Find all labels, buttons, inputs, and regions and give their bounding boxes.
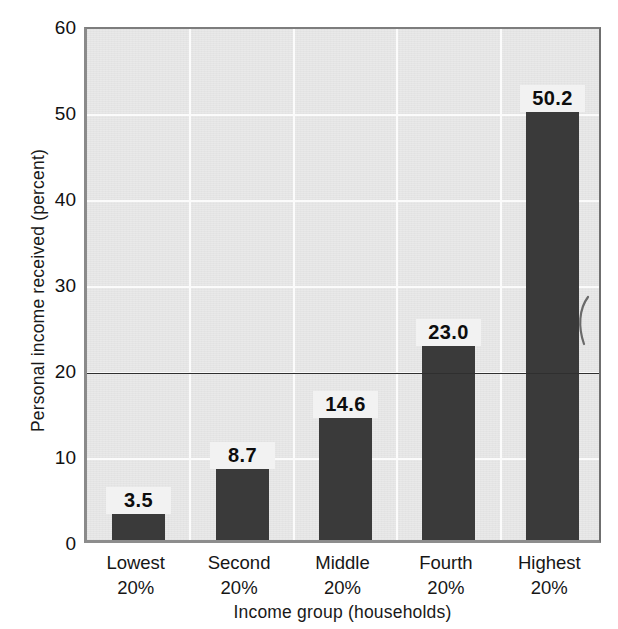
x-tick-label: Lowest20% <box>84 550 187 600</box>
x-tick-label-line2: 20% <box>291 575 394 600</box>
x-tick-label: Second20% <box>187 550 290 600</box>
x-tick-label-line2: 20% <box>84 575 187 600</box>
bar-value-label: 14.6 <box>303 393 388 416</box>
y-tick-label: 50 <box>30 104 76 123</box>
x-tick-label-line1: Highest <box>518 552 581 573</box>
x-tick-label-line1: Fourth <box>419 552 472 573</box>
gridline-horizontal <box>87 114 599 116</box>
x-tick-label: Middle20% <box>291 550 394 600</box>
plot-area: 3.58.714.623.050.2 <box>84 27 601 543</box>
y-tick-label: 10 <box>30 448 76 467</box>
x-tick-label-line1: Second <box>208 552 271 573</box>
gridline-vertical <box>293 29 295 540</box>
bar <box>112 510 165 540</box>
x-tick-label: Fourth20% <box>394 550 497 600</box>
y-tick-label: 40 <box>30 190 76 209</box>
bar-value-label: 3.5 <box>96 489 181 512</box>
gridline-vertical <box>396 29 398 540</box>
x-tick-label-line2: 20% <box>187 575 290 600</box>
bar-value-label: 8.7 <box>200 444 285 467</box>
x-tick-label-line2: 20% <box>498 575 601 600</box>
x-tick-label-line2: 20% <box>394 575 497 600</box>
bar <box>319 414 372 540</box>
y-tick-label: 0 <box>30 534 76 553</box>
bar <box>422 342 475 540</box>
x-tick-label-line1: Lowest <box>106 552 165 573</box>
chart-figure: Personal income received (percent) 01020… <box>0 0 618 629</box>
gridline-horizontal <box>87 200 599 202</box>
gridline-horizontal <box>87 286 599 288</box>
gridline-vertical <box>500 29 502 540</box>
x-tick-label-line1: Middle <box>315 552 370 573</box>
reference-line-20-percent <box>87 373 599 374</box>
bar-value-label: 23.0 <box>406 321 491 344</box>
bar <box>216 465 269 540</box>
y-tick-label: 30 <box>30 276 76 295</box>
x-tick-label: Highest20% <box>498 550 601 600</box>
x-axis-title: Income group (households) <box>84 602 601 623</box>
y-axis-tick-labels: 0102030405060 <box>30 27 76 543</box>
bar-value-label: 50.2 <box>510 87 595 110</box>
y-tick-label: 20 <box>30 362 76 381</box>
bar <box>526 108 579 540</box>
gridline-vertical <box>189 29 191 540</box>
x-axis-tick-labels: Lowest20%Second20%Middle20%Fourth20%High… <box>84 550 601 604</box>
y-tick-label: 60 <box>30 18 76 37</box>
